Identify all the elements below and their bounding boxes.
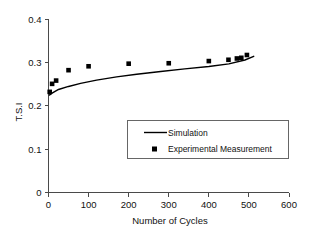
x-tick-label: 100 <box>81 199 97 210</box>
y-tick-label: 0 <box>36 187 41 198</box>
x-tick-label: 600 <box>281 199 297 210</box>
x-tick-label: 0 <box>46 199 51 210</box>
x-tick-label: 400 <box>201 199 217 210</box>
y-tick-label: 0.4 <box>28 14 41 25</box>
data-point-marker <box>239 56 244 61</box>
simulation-curve <box>49 56 253 95</box>
legend-label-simulation: Simulation <box>168 128 208 138</box>
y-tick-label: 0.2 <box>28 100 41 111</box>
chart-figure: 00.10.20.30.4 0100200300400500600 T.S.I … <box>0 0 311 244</box>
axes-group <box>49 19 290 193</box>
scatter-chart-canvas: 00.10.20.30.4 0100200300400500600 T.S.I … <box>0 0 311 244</box>
y-tick-label: 0.3 <box>28 57 41 68</box>
x-tick-label: 300 <box>161 199 177 210</box>
x-axis-ticks: 0100200300400500600 <box>46 193 297 210</box>
chart-legend: Simulation Experimental Measurement <box>128 121 289 159</box>
y-axis-title: T.S.I <box>13 102 24 121</box>
legend-experimental-marker-swatch <box>152 147 157 152</box>
data-point-marker <box>50 82 55 87</box>
legend-label-experimental: Experimental Measurement <box>168 144 273 154</box>
data-point-marker <box>126 61 131 66</box>
data-point-marker <box>207 59 212 64</box>
data-point-marker <box>66 68 71 73</box>
data-point-marker <box>245 53 250 58</box>
data-point-marker <box>86 64 91 69</box>
x-tick-label: 500 <box>241 199 257 210</box>
x-tick-label: 200 <box>121 199 137 210</box>
y-tick-label: 0.1 <box>28 144 41 155</box>
y-axis-ticks: 00.10.20.30.4 <box>28 14 48 199</box>
data-point-marker <box>166 61 171 66</box>
data-point-marker <box>54 78 59 83</box>
data-point-marker <box>226 57 231 62</box>
x-axis-title: Number of Cycles <box>132 215 208 226</box>
data-point-marker <box>235 56 240 61</box>
data-point-marker <box>47 90 52 95</box>
